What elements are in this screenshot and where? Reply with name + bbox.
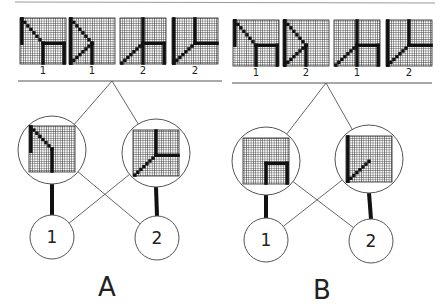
input-connection xyxy=(287,83,326,134)
tile-class-label: 1 xyxy=(89,65,95,76)
top-edge-line xyxy=(15,2,435,3)
panel-label: B xyxy=(313,275,331,305)
tile-class-label: 2 xyxy=(192,65,198,76)
training-pattern-tile xyxy=(120,18,166,65)
weak-connection xyxy=(78,172,140,224)
training-pattern-tile xyxy=(69,17,115,65)
output-unit-label: 2 xyxy=(366,231,377,251)
tile-class-label: 2 xyxy=(140,65,146,76)
weak-connection xyxy=(283,180,342,226)
tile-class-label: 2 xyxy=(303,67,309,78)
panel-label: A xyxy=(98,272,116,302)
input-connection xyxy=(112,81,138,124)
weak-connection xyxy=(293,182,353,228)
tile-class-label: 2 xyxy=(406,67,412,78)
weak-connection xyxy=(69,174,129,223)
receptive-field-tile xyxy=(29,125,75,172)
receptive-field-tile xyxy=(346,136,392,183)
training-pattern-tile xyxy=(283,19,329,67)
output-unit-label: 2 xyxy=(152,228,163,248)
training-pattern-tile xyxy=(334,20,380,67)
strong-connection xyxy=(156,187,157,216)
training-pattern-tile xyxy=(386,20,432,67)
panel-a: 112212A xyxy=(18,17,222,302)
input-connection xyxy=(74,81,112,124)
receptive-field-tile xyxy=(243,138,289,184)
training-pattern-tile xyxy=(233,19,279,66)
strong-connection xyxy=(369,193,371,219)
output-unit-label: 1 xyxy=(261,230,272,250)
tile-class-label: 1 xyxy=(40,65,46,76)
panel-b: 121212B xyxy=(232,19,432,305)
training-pattern-tile xyxy=(20,17,66,64)
receptive-field-tile xyxy=(133,130,179,177)
training-pattern-tile xyxy=(172,18,218,65)
tile-class-label: 1 xyxy=(253,67,259,78)
output-unit-label: 1 xyxy=(47,227,58,247)
network-diagram: 112212A 121212B xyxy=(0,0,448,308)
tile-class-label: 1 xyxy=(354,67,360,78)
input-connection xyxy=(326,83,352,129)
